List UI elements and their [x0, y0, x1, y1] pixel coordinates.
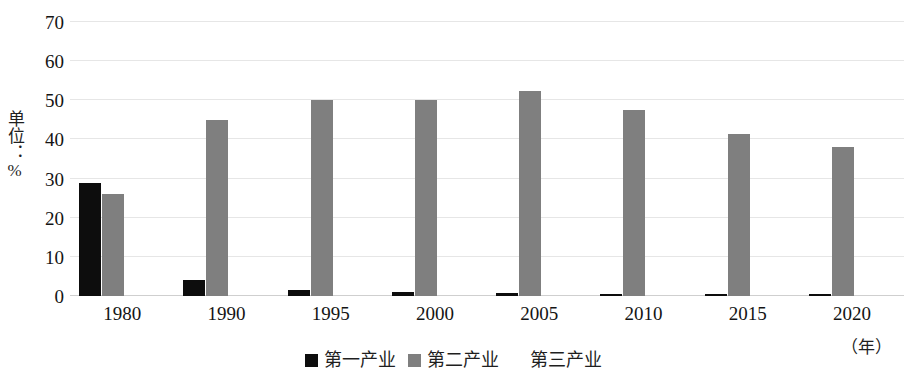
bar: [206, 120, 228, 296]
y-tick-label-10: 10: [28, 248, 64, 267]
bar: [288, 290, 310, 296]
y-axis-tick-labels: 010203040506070: [28, 0, 64, 310]
y-tick-label-40: 40: [28, 130, 64, 149]
legend-swatch-icon: [511, 354, 524, 367]
chart-legend: 第一产业第二产业第三产业: [0, 350, 906, 370]
y-tick-label-50: 50: [28, 91, 64, 110]
bar: [311, 100, 333, 296]
legend-item[interactable]: 第一产业: [305, 350, 396, 370]
bar: [415, 100, 437, 296]
bar: [519, 91, 541, 297]
y-tick-label-70: 70: [28, 13, 64, 32]
x-tick-label-1995: 1995: [279, 303, 383, 325]
bar: [79, 183, 101, 297]
legend-item[interactable]: 第三产业: [511, 350, 602, 370]
bar: [496, 293, 518, 296]
legend-swatch-icon: [305, 354, 318, 367]
bar: [102, 194, 124, 296]
bar: [809, 294, 831, 296]
bar-group: [288, 22, 356, 296]
bar-chart: 单位：% 010203040506070 1980199019952000200…: [0, 0, 906, 377]
legend-label: 第一产业: [324, 350, 396, 370]
bars-layer: [70, 22, 904, 296]
x-tick-label-2000: 2000: [383, 303, 487, 325]
bar-group: [600, 22, 668, 296]
bar-group: [183, 22, 251, 296]
bar-group: [79, 22, 147, 296]
bar: [183, 280, 205, 296]
plot-area: [70, 22, 904, 296]
bar-group: [809, 22, 877, 296]
y-tick-label-0: 0: [28, 287, 64, 306]
y-tick-label-20: 20: [28, 209, 64, 228]
y-tick-label-30: 30: [28, 170, 64, 189]
x-tick-label-2020: 2020: [800, 303, 904, 325]
legend-swatch-icon: [408, 354, 421, 367]
x-tick-label-1980: 1980: [70, 303, 174, 325]
bar: [623, 110, 645, 296]
x-tick-label-2010: 2010: [591, 303, 695, 325]
legend-label: 第二产业: [427, 350, 499, 370]
bar: [392, 292, 414, 296]
bar-group: [705, 22, 773, 296]
bar-group: [392, 22, 460, 296]
y-axis-title: 单位：%: [2, 110, 24, 180]
x-tick-label-1990: 1990: [174, 303, 278, 325]
x-tick-label-2005: 2005: [487, 303, 591, 325]
bar: [832, 147, 854, 296]
legend-item[interactable]: 第二产业: [408, 350, 499, 370]
bar: [600, 294, 622, 296]
y-tick-label-60: 60: [28, 52, 64, 71]
x-axis-tick-labels: 19801990199520002005201020152020: [70, 303, 904, 331]
bar-group: [496, 22, 564, 296]
legend-label: 第三产业: [530, 350, 602, 370]
bar: [728, 134, 750, 296]
bar: [705, 294, 727, 296]
x-tick-label-2015: 2015: [696, 303, 800, 325]
